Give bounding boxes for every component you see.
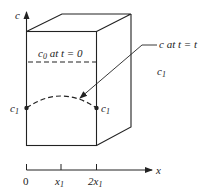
tick-label-0: 0 (23, 175, 29, 187)
left-boundary-label: c1 (10, 102, 19, 116)
x-axis-label: x (155, 164, 161, 176)
left-boundary-dot (24, 106, 28, 110)
outside-concentration-label: c1 (157, 65, 166, 79)
c-axis-label: c (15, 9, 20, 21)
slab-box (27, 14, 132, 146)
tick-label-x1: x1 (54, 175, 64, 189)
current-profile-label: c at t = t (159, 38, 198, 50)
top-face-edges (27, 14, 132, 32)
c-axis: c (15, 9, 27, 32)
diffusion-diagram: c c0 at t = 0 c1 c1 c at t = t c1 x 0 x1… (0, 0, 211, 193)
x-axis (27, 164, 153, 170)
right-boundary-label: c1 (101, 102, 110, 116)
right-boundary-dot (94, 106, 98, 110)
current-profile-leader (80, 45, 157, 98)
initial-concentration-label: c0 at t = 0 (38, 47, 83, 61)
tick-label-2x1: 2x1 (88, 175, 102, 189)
concentration-profile-curve (27, 96, 97, 108)
